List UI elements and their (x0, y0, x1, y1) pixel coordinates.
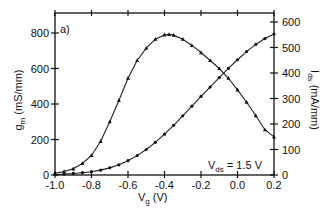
data-marker (90, 170, 93, 173)
data-marker (108, 120, 112, 124)
y-right-tick-label: 300 (282, 93, 300, 105)
chart-canvas: -1.0-0.8-0.6-0.4-0.20.00.2 0200400600800… (0, 0, 330, 214)
vds-annotation: Vds = 1.5 V (208, 159, 263, 174)
y-right-tick-label: 200 (282, 118, 300, 130)
data-marker (199, 95, 202, 98)
data-marker (99, 169, 102, 172)
y-left-tick-label: 400 (31, 98, 49, 110)
data-marker (99, 139, 103, 143)
y-left-tick-label: 800 (31, 27, 49, 39)
x-tick-label: -0.6 (119, 179, 138, 191)
x-tick-label: -0.4 (155, 179, 174, 191)
data-marker (72, 172, 75, 175)
data-marker (117, 98, 121, 102)
data-marker (272, 32, 275, 35)
y-left-tick-label: 0 (43, 169, 49, 181)
y-right-tick-label: 100 (282, 144, 300, 156)
x-axis-label: Vg (V) (138, 191, 168, 206)
series-layer (53, 32, 276, 176)
data-marker (126, 159, 129, 162)
data-marker (236, 58, 239, 61)
data-marker (163, 133, 166, 136)
x-tick-label: 0.0 (230, 179, 245, 191)
data-marker (172, 124, 175, 127)
gm-curve (55, 34, 274, 173)
y-left-axis-label: gm (mS/mm) (12, 69, 27, 130)
data-marker (136, 154, 139, 157)
x-tick-label: 0.2 (266, 179, 281, 191)
y-left-tick-label: 200 (31, 134, 49, 146)
data-marker (81, 171, 84, 174)
y-right-tick-label: 400 (282, 67, 300, 79)
data-marker (53, 173, 56, 176)
y-right-tick-label: 0 (282, 169, 288, 181)
y-right-axis-label: Ids (mA/mm) (306, 70, 321, 130)
y-right-tick-label: 600 (282, 16, 300, 28)
data-marker (227, 67, 230, 70)
data-marker (117, 163, 120, 166)
panel-label: a) (60, 23, 70, 35)
data-marker (108, 166, 111, 169)
y-right-tick-label: 500 (282, 42, 300, 54)
data-marker (263, 37, 266, 40)
data-marker (190, 105, 193, 108)
x-tick-label: -0.2 (192, 179, 211, 191)
data-marker (154, 141, 157, 144)
data-marker (63, 172, 66, 175)
data-marker (245, 50, 248, 53)
data-marker (181, 114, 184, 117)
x-tick-label: -0.8 (82, 179, 101, 191)
data-marker (145, 148, 148, 151)
data-marker (254, 43, 257, 46)
data-marker (209, 85, 212, 88)
data-marker (218, 76, 221, 79)
Ids-curve (55, 34, 274, 175)
y-left-tick-label: 600 (31, 63, 49, 75)
